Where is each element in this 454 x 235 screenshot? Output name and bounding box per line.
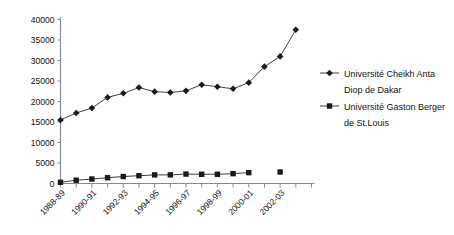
- chart-canvas: 0500010000150002000025000300003500040000…: [0, 0, 454, 235]
- series-1: [57, 26, 299, 123]
- data-point-marker: [198, 81, 205, 88]
- x-tick-label: 2002-03: [257, 188, 286, 217]
- series-2: [58, 169, 283, 185]
- y-axis: 0500010000150002000025000300003500040000: [31, 15, 61, 189]
- data-point-marker: [168, 172, 173, 177]
- y-tick-label: 30000: [31, 56, 55, 66]
- data-point-marker: [293, 26, 300, 33]
- data-point-marker: [183, 171, 188, 176]
- legend-label-line1: Université Gaston Berger: [344, 102, 445, 112]
- y-tick-label: 5000: [36, 158, 55, 168]
- legend-label-line2: de St.Louis: [344, 118, 390, 128]
- data-point-marker: [152, 172, 157, 177]
- data-point-marker: [151, 88, 158, 95]
- data-point-marker: [136, 84, 143, 91]
- x-tick-label: 1998-99: [195, 188, 224, 217]
- chart-legend: Université Cheikh AntaDiop de DakarUnive…: [320, 69, 445, 128]
- legend-label-line1: Université Cheikh Anta: [344, 69, 435, 79]
- data-point-marker: [230, 85, 237, 92]
- data-point-marker: [104, 94, 111, 101]
- data-point-marker: [167, 89, 174, 96]
- y-tick-label: 25000: [31, 76, 55, 86]
- legend-label-line2: Diop de Dakar: [344, 85, 402, 95]
- x-tick-label: 1996-97: [163, 188, 192, 217]
- data-point-marker: [199, 172, 204, 177]
- data-point-marker: [246, 170, 251, 175]
- data-point-marker: [58, 180, 63, 185]
- data-point-marker: [121, 174, 126, 179]
- y-tick-label: 10000: [31, 138, 55, 148]
- legend-entry-2: Université Gaston Bergerde St.Louis: [320, 102, 445, 128]
- data-point-marker: [105, 175, 110, 180]
- legend-entry-1: Université Cheikh AntaDiop de Dakar: [320, 69, 435, 95]
- data-point-marker: [136, 173, 141, 178]
- data-point-marker: [73, 110, 80, 117]
- x-tick-label: 1990-91: [69, 188, 98, 217]
- data-point-marker: [73, 178, 78, 183]
- line-chart: 0500010000150002000025000300003500040000…: [0, 0, 454, 235]
- x-tick-label: 1988-89: [38, 188, 67, 217]
- x-axis: 1988-891990-911992-931994-951996-971998-…: [38, 184, 315, 217]
- y-tick-label: 35000: [31, 35, 55, 45]
- data-point-marker: [120, 90, 127, 97]
- x-tick-label: 1994-95: [132, 188, 161, 217]
- data-point-marker: [183, 88, 190, 95]
- x-tick-label: 1992-93: [101, 188, 130, 217]
- y-tick-label: 0: [50, 179, 55, 189]
- legend-marker-diamond: [326, 70, 333, 77]
- data-point-marker: [214, 83, 221, 90]
- y-tick-label: 15000: [31, 117, 55, 127]
- series-plot-area: [57, 26, 299, 185]
- y-tick-label: 40000: [31, 15, 55, 25]
- data-point-marker: [277, 53, 284, 60]
- data-point-marker: [277, 169, 282, 174]
- data-point-marker: [230, 171, 235, 176]
- legend-marker-square: [327, 103, 332, 108]
- y-tick-label: 20000: [31, 97, 55, 107]
- data-point-marker: [89, 105, 96, 112]
- series-line: [61, 30, 296, 120]
- data-point-marker: [215, 172, 220, 177]
- x-tick-label: 2000-01: [226, 188, 255, 217]
- data-point-marker: [89, 176, 94, 181]
